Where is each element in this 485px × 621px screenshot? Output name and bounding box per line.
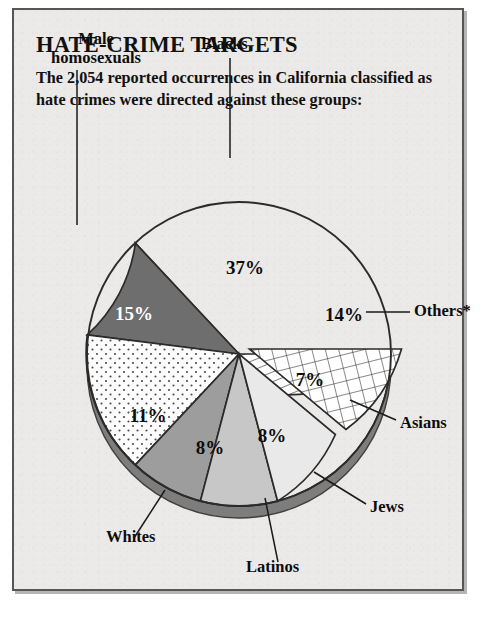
- callout-label-male-homosexuals-line2: homosexuals: [51, 48, 141, 67]
- slice-value-jews: 8%: [258, 425, 287, 446]
- screenshot-root: HATE-CRIME TARGETS The 2,054 reported oc…: [0, 0, 485, 621]
- hate-crime-targets-card: HATE-CRIME TARGETS The 2,054 reported oc…: [12, 8, 464, 591]
- callout-label-latinos[interactable]: Latinos: [246, 558, 299, 577]
- callout-label-jews[interactable]: Jews: [370, 498, 404, 517]
- slice-value-others: 14%: [325, 304, 363, 325]
- callout-label-asians[interactable]: Asians: [400, 414, 447, 433]
- callout-label-whites[interactable]: Whites: [106, 528, 156, 547]
- slice-value-whites: 11%: [130, 405, 167, 426]
- slice-value-male-homosexuals: 15%: [115, 303, 153, 324]
- callout-label-male-homosexuals-line1: Male: [78, 29, 114, 48]
- slice-value-latinos: 8%: [196, 437, 225, 458]
- slice-value-asians: 7%: [296, 369, 325, 390]
- slice-value-blacks: 37%: [226, 257, 264, 278]
- callout-label-male-homosexuals[interactable]: Male homosexuals: [34, 30, 158, 68]
- callout-label-blacks[interactable]: Blacks: [201, 35, 248, 54]
- callout-label-others[interactable]: Others*: [414, 302, 471, 321]
